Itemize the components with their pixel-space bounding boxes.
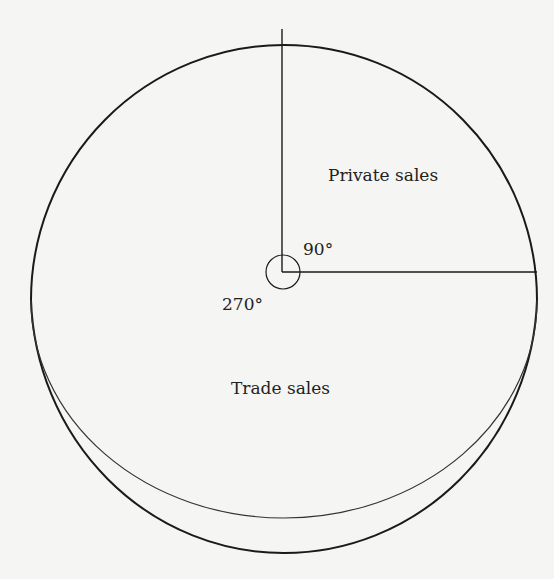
- angle-label-private: 90°: [303, 241, 333, 258]
- pie-top-face-lower-arc: [31, 300, 537, 518]
- pie-chart: [0, 0, 554, 579]
- pie-chart-figure: Private sales 90° 270° Trade sales: [0, 0, 554, 579]
- slice-label-trade-sales: Trade sales: [231, 380, 330, 397]
- pie-outer-outline: [31, 45, 537, 553]
- slice-label-private-sales: Private sales: [328, 167, 438, 184]
- angle-label-trade: 270°: [222, 296, 263, 313]
